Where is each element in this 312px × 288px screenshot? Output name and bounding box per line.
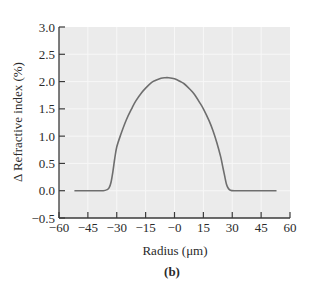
y-tick-label: 1.5 [39, 101, 55, 116]
refractive-index-chart: −60−45−30−15−015304560 3.02.52.01.51.00.… [0, 0, 312, 288]
panel-label: (b) [164, 264, 180, 279]
x-tick-label: −0 [168, 220, 182, 235]
y-tick-label: 2.5 [39, 47, 55, 62]
y-axis-label: Δ Refractive index (%) [10, 62, 25, 182]
x-tick-label: 15 [197, 220, 210, 235]
x-tick-label: 45 [255, 220, 268, 235]
x-tick-label: 60 [284, 220, 297, 235]
y-tick-label: 2.0 [39, 74, 55, 89]
y-tick-label: −0.5 [31, 211, 55, 226]
y-tick-label: 1.0 [39, 129, 55, 144]
x-tick-label: −45 [78, 220, 98, 235]
x-axis-label: Radius (μm) [142, 243, 207, 258]
x-tick-label: 30 [226, 220, 239, 235]
x-tick-label: −30 [107, 220, 127, 235]
y-tick-label: 0.5 [39, 156, 55, 171]
x-tick-label: −15 [135, 220, 155, 235]
y-tick-label: 3.0 [39, 20, 55, 35]
y-tick-label: 0.0 [39, 183, 55, 198]
